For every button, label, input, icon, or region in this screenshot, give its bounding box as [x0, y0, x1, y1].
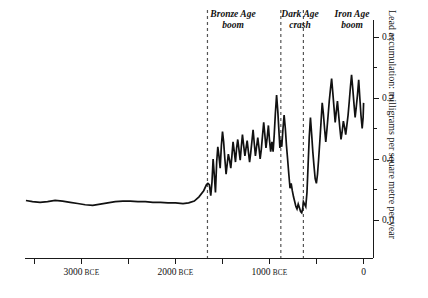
annotation-dark-age-crash: Dark Age crash: [272, 9, 328, 31]
y-axis-title: Lead accumulation: milligrams per square…: [382, 10, 398, 260]
chart-ticks: [34, 37, 379, 264]
annotation-iron-age-boom: Iron Age boom: [325, 9, 379, 31]
x-tick-label-0: 3000 BCE: [64, 267, 100, 277]
lead-accumulation-chart: Bronze Age boom Dark Age crash Iron Age …: [0, 0, 428, 298]
x-tick-label-1: 2000 BCE: [158, 267, 194, 277]
x-tick-label-3: 0: [361, 267, 366, 277]
x-tick-label-2: 1000 BCE: [252, 267, 288, 277]
annotation-bronze-age-boom: Bronze Age boom: [196, 9, 270, 31]
lead-accumulation-line: [26, 75, 364, 213]
chart-plot-area: [0, 0, 428, 298]
